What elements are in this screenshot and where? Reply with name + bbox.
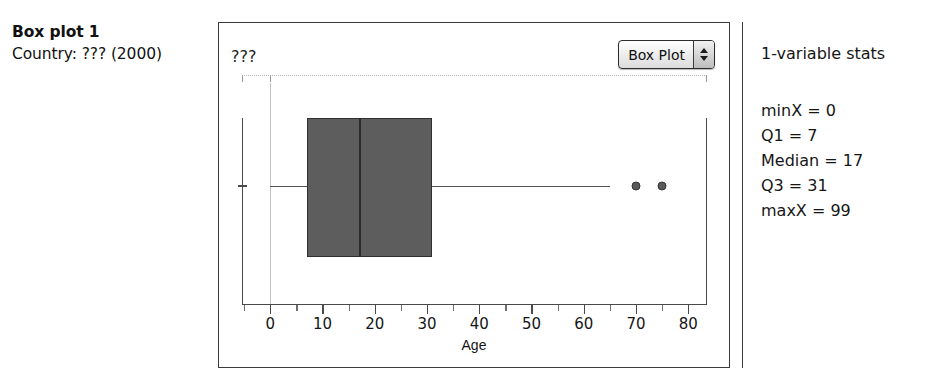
stat-row: Q3 = 31	[761, 173, 863, 198]
ruler-tick-left	[242, 75, 243, 82]
caption-subtitle: Country: ??? (2000)	[12, 43, 212, 65]
x-axis-minor-tick	[558, 305, 559, 311]
caption-block: Box plot 1 Country: ??? (2000)	[12, 22, 212, 65]
top-ruler-dotted-line	[242, 75, 707, 77]
stat-row: Median = 17	[761, 148, 863, 173]
chevron-down-icon	[700, 56, 708, 61]
x-axis-major-tick	[479, 305, 480, 314]
axis-left-upright	[242, 118, 243, 305]
x-axis-tick-label: 40	[470, 315, 489, 333]
x-axis-minor-tick	[401, 305, 402, 311]
x-axis-minor-tick	[505, 305, 506, 311]
x-axis-major-tick	[375, 305, 376, 314]
stat-row: maxX = 99	[761, 198, 863, 223]
outlier-point[interactable]	[631, 182, 640, 191]
ruler-tick-right	[706, 75, 707, 82]
stats-panel-title: 1-variable stats	[761, 44, 885, 63]
x-axis-major-tick	[636, 305, 637, 314]
x-axis-minor-tick	[453, 305, 454, 311]
x-axis-title: Age	[219, 337, 729, 353]
variable-label[interactable]: ???	[231, 49, 256, 65]
minimum-value-marker	[238, 185, 247, 187]
box-rectangle[interactable]	[307, 118, 432, 257]
page-title: Box plot 1	[12, 22, 212, 43]
x-axis-major-tick	[584, 305, 585, 314]
x-axis-tick-label: 0	[265, 315, 275, 333]
x-axis-tick-label: 10	[313, 315, 332, 333]
stepper-arrows-icon[interactable]	[693, 41, 714, 68]
x-axis-major-tick	[688, 305, 689, 314]
axis-right-upright	[706, 118, 707, 305]
x-axis-major-tick	[427, 305, 428, 314]
x-axis-tick-label: 20	[365, 315, 384, 333]
box-plot-panel: ??? 01020304050607080 Age Box Plot	[218, 22, 730, 368]
stat-row: minX = 0	[761, 98, 863, 123]
stats-list: minX = 0Q1 = 7Median = 17Q3 = 31maxX = 9…	[761, 98, 863, 223]
plot-type-dropdown[interactable]: Box Plot	[618, 40, 715, 69]
x-axis-tick-label: 60	[574, 315, 593, 333]
x-axis-major-tick	[270, 305, 271, 314]
x-axis-major-tick	[531, 305, 532, 314]
chevron-up-icon	[700, 48, 708, 53]
x-axis-minor-tick	[296, 305, 297, 311]
zero-gridline	[270, 83, 271, 305]
x-axis-tick-label: 30	[417, 315, 436, 333]
plot-drawing-area[interactable]: ??? 01020304050607080 Age Box Plot	[219, 23, 729, 367]
one-variable-stats-panel: 1-variable stats minX = 0Q1 = 7Median = …	[742, 22, 927, 368]
ruler-tick-zero	[270, 75, 271, 82]
x-axis-tick-label: 70	[626, 315, 645, 333]
x-axis-minor-tick	[610, 305, 611, 311]
x-axis-baseline	[242, 304, 707, 305]
median-line	[359, 118, 361, 257]
x-axis-minor-tick	[662, 305, 663, 311]
x-axis-tick-label: 50	[522, 315, 541, 333]
outlier-point[interactable]	[658, 182, 667, 191]
x-axis-minor-tick	[244, 305, 245, 311]
stat-row: Q1 = 7	[761, 123, 863, 148]
x-axis-major-tick	[322, 305, 323, 314]
x-axis-minor-tick	[349, 305, 350, 311]
x-axis-tick-label: 80	[679, 315, 698, 333]
plot-type-selected-label: Box Plot	[619, 41, 693, 68]
